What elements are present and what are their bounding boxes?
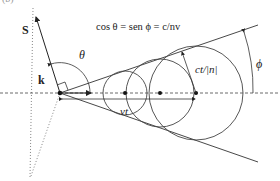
phi-label: ϕ — [256, 58, 262, 70]
ct-over-n-label: ct/|n| — [195, 64, 218, 75]
theta-label: θ — [79, 49, 85, 61]
vt-label: vt — [120, 106, 128, 117]
center-dot-2 — [158, 91, 162, 95]
theta-arc — [51, 63, 90, 93]
s-vector-label: S — [22, 24, 29, 36]
panel-label: (b) — [2, 0, 14, 4]
cherenkov-formula: cos θ = sen ϕ = c/nv — [96, 22, 180, 33]
center-dot-1 — [123, 91, 127, 95]
ct-radius-arrow — [182, 52, 196, 93]
phi-arc — [244, 32, 253, 93]
k-vector-label: k — [38, 74, 45, 86]
